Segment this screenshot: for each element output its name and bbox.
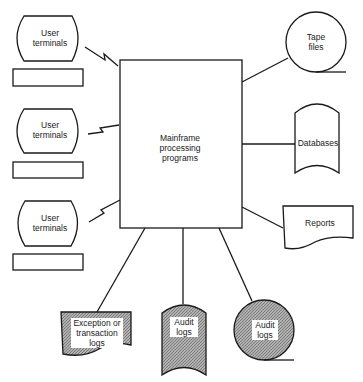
comm-link-3 [89,200,120,222]
terminal-keyboard-3 [13,254,83,270]
link-exception [97,228,145,312]
comm-link-2 [88,125,119,134]
audit-logs-tape-label: Audit logs [252,320,278,340]
terminal-label-3: User terminals [20,213,80,233]
terminal-keyboard-2 [13,162,83,178]
reports-label: Reports [295,218,345,228]
link-tape [242,58,288,82]
exception-logs-label: Exception or transaction logs [71,318,123,348]
audit-logs-disk-label: Audit logs [170,317,198,337]
terminal-label-2: User terminals [20,120,80,140]
tape-files-label: Tape files [296,32,336,52]
mainframe-label: Mainframe processing programs [140,133,220,163]
link-reports [242,207,283,228]
audit-logs-disk-shape [162,305,206,375]
link-audit-tape [219,228,252,301]
terminal-label-1: User terminals [20,28,80,48]
comm-link-1 [85,47,118,66]
terminal-keyboard-1 [13,69,83,86]
databases-label: Databases [294,138,342,148]
